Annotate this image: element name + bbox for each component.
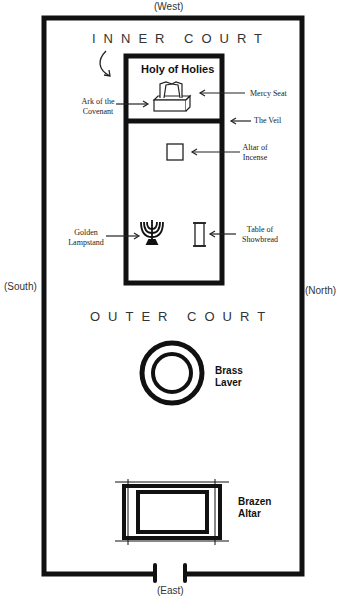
direction-east: (East) <box>157 585 184 596</box>
holy-of-holies-title: Holy of Holies <box>141 63 214 75</box>
altar-of-incense-icon <box>167 144 183 160</box>
ark-of-covenant-icon <box>154 82 190 111</box>
brazen-altar-icon <box>115 479 229 545</box>
table-of-showbread-icon <box>193 223 206 246</box>
tabernacle-diagram <box>0 0 345 604</box>
outer-court-heading: OUTER COURT <box>90 309 273 324</box>
golden-lampstand-icon <box>141 220 163 244</box>
brass-laver-icon <box>142 343 202 403</box>
tabernacle-outline <box>126 56 222 283</box>
direction-south: (South) <box>4 281 37 292</box>
label-brazen-altar: Brazen Altar <box>238 496 271 520</box>
inner-court-arrow-icon <box>100 51 110 76</box>
inner-court-heading: INNER COURT <box>92 31 270 46</box>
label-golden-lampstand: Golden Lampstand <box>64 228 108 248</box>
label-ark-of-covenant: Ark of the Covenant <box>78 97 118 117</box>
label-brass-laver: Brass Laver <box>215 365 243 389</box>
direction-west: (West) <box>154 1 183 12</box>
label-altar-of-incense: Altar of Incense <box>238 143 272 163</box>
label-table-of-showbread: Table of Showbread <box>236 225 284 245</box>
label-the-veil: The Veil <box>254 116 281 126</box>
label-mercy-seat: Mercy Seat <box>250 89 287 99</box>
direction-north: (North) <box>305 285 336 296</box>
